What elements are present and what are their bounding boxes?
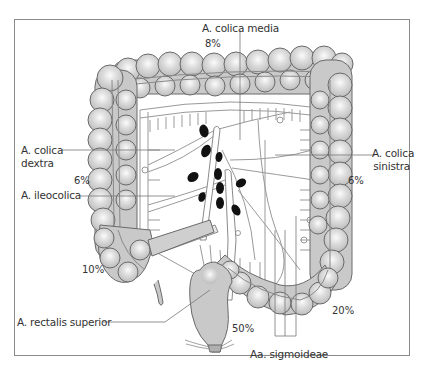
label-a-colica-dextra-1: A. colica	[21, 144, 63, 157]
label-a-colica-sinistra-2: sinistra	[372, 160, 410, 173]
label-a-colica-dextra-2: dextra	[21, 157, 54, 170]
rectum	[190, 262, 232, 352]
label-a-ileocolica: A. ileocolica	[21, 189, 81, 202]
pct-rectum: 50%	[232, 323, 254, 335]
pct-left-colon: 6%	[348, 175, 364, 187]
label-a-colica-sinistra-1: A. colica	[372, 147, 410, 160]
label-a-colica-media: A. colica media	[202, 22, 279, 35]
pct-cecum: 10%	[82, 264, 104, 276]
pct-colica-media: 8%	[205, 38, 221, 50]
label-a-rectalis-superior: A. rectalis superior	[17, 316, 111, 329]
label-aa-sigmoideae: Aa. sigmoideae	[250, 348, 328, 361]
pct-right-colon: 6%	[74, 175, 90, 187]
pct-sigmoid: 20%	[332, 305, 354, 317]
